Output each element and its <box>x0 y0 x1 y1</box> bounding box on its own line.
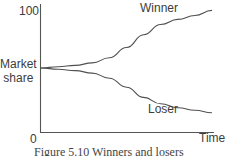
figure-caption: Figure 5.10 Winners and losers <box>34 146 184 156</box>
y-axis-label: Market share <box>0 57 37 85</box>
loser-line <box>41 68 212 113</box>
loser-series-label: Loser <box>148 103 178 116</box>
x-axis-label: Time <box>199 132 225 145</box>
winner-line <box>41 10 212 68</box>
y-axis-label-line2: share <box>0 71 37 85</box>
y-axis-max-tick: 100 <box>19 5 39 18</box>
winner-series-label: Winner <box>140 2 178 15</box>
y-axis-label-line1: Market <box>0 57 37 71</box>
